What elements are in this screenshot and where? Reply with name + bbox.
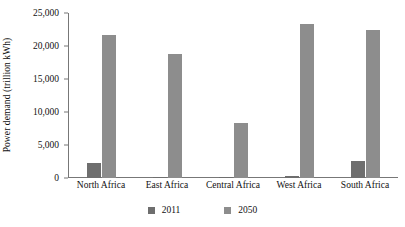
legend-label: 2050 bbox=[238, 205, 257, 215]
bar-group bbox=[332, 13, 398, 178]
bar-2050-north-africa bbox=[102, 35, 116, 178]
y-axis-tick-label: 0 bbox=[54, 173, 59, 183]
legend-item-2050[interactable]: 2050 bbox=[224, 205, 257, 215]
y-axis-tick-labels: 05,00010,00015,00020,00025,000 bbox=[0, 0, 68, 191]
legend-swatch-icon bbox=[224, 207, 231, 214]
bar-chart: Power demand (trillion kWh) 05,00010,000… bbox=[0, 0, 405, 227]
chart-legend: 20112050 bbox=[0, 202, 405, 218]
y-axis-tick-label: 15,000 bbox=[33, 74, 59, 84]
bar-group bbox=[68, 13, 134, 178]
legend-label: 2011 bbox=[162, 205, 181, 215]
bar-2050-east-africa bbox=[168, 54, 182, 178]
bar-2050-central-africa bbox=[234, 123, 248, 178]
bar-2011-central-africa bbox=[219, 177, 233, 178]
x-axis-tick-label: North Africa bbox=[68, 180, 134, 196]
y-axis-tick-label: 20,000 bbox=[33, 41, 59, 51]
bar-groups bbox=[68, 13, 398, 178]
x-axis-tick-labels: North AfricaEast AfricaCentral AfricaWes… bbox=[68, 180, 398, 196]
bar-2050-west-africa bbox=[300, 24, 314, 178]
bar-2050-south-africa bbox=[366, 30, 380, 178]
y-axis-tick-label: 25,000 bbox=[33, 8, 59, 18]
bar-2011-east-africa bbox=[153, 177, 167, 178]
legend-item-2011[interactable]: 2011 bbox=[148, 205, 181, 215]
x-axis-tick-label: Central Africa bbox=[200, 180, 266, 196]
legend-swatch-icon bbox=[148, 207, 155, 214]
y-axis-tick-label: 10,000 bbox=[33, 107, 59, 117]
bar-2011-west-africa bbox=[285, 176, 299, 178]
y-axis-tick-label: 5,000 bbox=[38, 140, 59, 150]
bar-2011-south-africa bbox=[351, 161, 365, 178]
bar-group bbox=[134, 13, 200, 178]
bar-group bbox=[200, 13, 266, 178]
x-axis-tick-label: South Africa bbox=[332, 180, 398, 196]
x-axis-tick-label: West Africa bbox=[266, 180, 332, 196]
x-axis-tick-label: East Africa bbox=[134, 180, 200, 196]
bar-group bbox=[266, 13, 332, 178]
bar-2011-north-africa bbox=[87, 163, 101, 178]
